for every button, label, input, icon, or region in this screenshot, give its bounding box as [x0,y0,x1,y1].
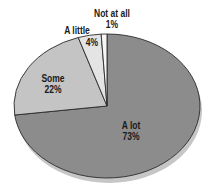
label-some-pct: 22% [39,84,68,95]
label-some-name: Some [39,73,68,84]
label-a-little-pct: 4% [84,37,101,48]
label-a-little-pct-box: 4% [84,37,101,48]
pie-slices [14,34,200,178]
label-not-at-all: Not at all 1% [93,8,130,30]
label-a-little: A little [63,25,92,36]
label-a-lot-pct: 73% [117,131,146,142]
label-some: Some 22% [39,73,68,95]
label-a-lot: A lot 73% [117,120,146,142]
label-not-at-all-pct: 1% [93,19,130,30]
label-not-at-all-name: Not at all [93,8,130,19]
label-a-little-name: A little [63,25,92,36]
label-a-lot-name: A lot [117,120,146,131]
